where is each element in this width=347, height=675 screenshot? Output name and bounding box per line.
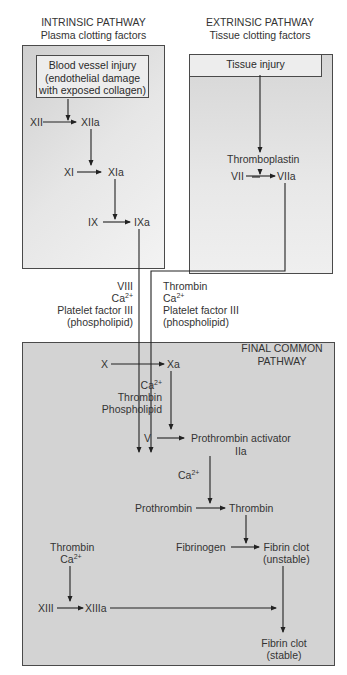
thrombin: Thrombin	[229, 502, 273, 514]
fibrin-clot-label: Fibrin clot	[263, 541, 310, 553]
factor-xi: XI	[64, 166, 74, 178]
cofactor-calcium: Ca2+	[40, 292, 133, 304]
xa-cofactors: Ca2+ Thrombin Phospholipid	[100, 379, 162, 415]
factor-viia: VIIa	[277, 170, 296, 182]
factor-xiia: XIIa	[81, 116, 100, 128]
factor-ix: IX	[88, 216, 98, 228]
factor-xii: XII	[30, 116, 43, 128]
factor-xia: XIa	[108, 166, 124, 178]
common-title-line-2: PATHWAY	[232, 355, 332, 368]
stable-clot-label: Fibrin clot	[259, 637, 309, 649]
intrinsic-cofactors: VIII Ca2+ Platelet factor III (phospholi…	[40, 280, 133, 328]
prothrombin-activator: Prothrombin activator	[191, 432, 291, 444]
factor-xiii: XIII	[38, 602, 54, 614]
unstable-label: (unstable)	[263, 553, 310, 565]
common-title-line-1: FINAL COMMON	[232, 342, 332, 355]
extrinsic-cofactors: Thrombin Ca2+ Platelet factor III (phosp…	[163, 280, 239, 328]
cofactor-platelet-factor-iii: Platelet factor III	[163, 304, 239, 316]
factor-xiiia: XIIIa	[85, 602, 107, 614]
cofactor-calcium: Ca2+	[50, 553, 92, 565]
factor-xa: Xa	[167, 358, 180, 370]
cofactor-calcium: Ca2+	[100, 379, 162, 391]
cofactor-platelet-factor-iii: Platelet factor III	[40, 304, 133, 316]
cofactor-viii: VIII	[40, 280, 133, 292]
pathway-arrows	[0, 0, 347, 675]
factor-ixa: IXa	[134, 216, 150, 228]
stable-label: (stable)	[259, 649, 309, 661]
cofactor-phospholipid: Phospholipid	[100, 403, 162, 415]
prothrombin: Prothrombin	[135, 502, 192, 514]
factor-iia: IIa	[235, 445, 247, 457]
factor-x: X	[101, 358, 108, 370]
cofactor-thrombin: Thrombin	[100, 391, 162, 403]
cofactor-thrombin: Thrombin	[163, 280, 239, 292]
cofactor-phospholipid: (phospholipid)	[40, 316, 133, 328]
fibrin-clot-unstable: Fibrin clot (unstable)	[263, 541, 310, 565]
calcium-label: Ca2+	[178, 469, 199, 481]
factor-vii: VII	[231, 170, 244, 182]
thromboplastin-label: Thromboplastin	[227, 153, 299, 165]
cofactor-thrombin: Thrombin	[50, 541, 92, 553]
xiii-cofactors: Thrombin Ca2+	[50, 541, 92, 565]
fibrinogen: Fibrinogen	[176, 541, 226, 553]
fibrin-clot-stable: Fibrin clot (stable)	[259, 637, 309, 661]
cofactor-phospholipid: (phospholipid)	[163, 316, 239, 328]
cofactor-calcium: Ca2+	[163, 292, 239, 304]
factor-v: V	[144, 432, 151, 444]
final-common-pathway-title: FINAL COMMON PATHWAY	[232, 342, 332, 367]
